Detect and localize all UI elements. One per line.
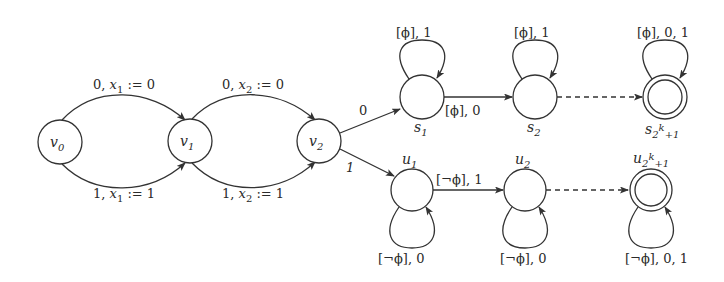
edge-label-v1-v2-bottom: 1, x2 := 1: [222, 186, 284, 204]
label-s1: s1: [414, 119, 428, 138]
label-u2k1: u2k+1: [633, 150, 669, 169]
edge-v1-v2-top: [192, 95, 315, 120]
loop-u2k1: [629, 207, 674, 248]
loop-s2k1: [643, 40, 688, 79]
edge-label-v0-v1-bottom: 1, x1 := 1: [93, 186, 155, 204]
loop-u2: [503, 207, 548, 248]
loop-label-u1: [¬ϕ], 0: [378, 251, 424, 266]
label-s2: s2: [527, 119, 541, 138]
edge-label-s1-s2: [ϕ], 0: [445, 103, 481, 118]
node-u2k1-inner: [635, 174, 667, 206]
node-s1: [400, 75, 444, 119]
edge-label-v2-u1: 1: [346, 160, 354, 175]
loop-label-s2: [ϕ], 1: [514, 25, 550, 40]
label-s2k1: s2k+1: [645, 121, 679, 140]
automaton-diagram: v0 v1 v2 s1 s2 s2k+1 u1 u2 u2k+1 0, x1 :…: [0, 0, 724, 282]
edge-v1-v2-bottom: [192, 162, 315, 188]
edge-label-u1-u2: [¬ϕ], 1: [436, 172, 482, 187]
node-u2: [504, 169, 546, 211]
label-u2: u2: [515, 151, 530, 170]
loop-label-u2k1: [¬ϕ], 0, 1: [625, 251, 688, 266]
edge-label-v2-s1: 0: [359, 103, 367, 118]
loop-label-s1: [ϕ], 1: [396, 25, 432, 40]
label-u1: u1: [402, 151, 417, 170]
edge-label-v0-v1-top: 0, x1 := 0: [93, 77, 155, 95]
loop-s2: [513, 40, 558, 79]
node-s2: [513, 75, 557, 119]
node-s2k1-inner: [648, 80, 682, 114]
node-u1: [391, 169, 433, 211]
edge-label-v1-v2-top: 0, x2 := 0: [222, 77, 284, 95]
edge-v0-v1-bottom: [62, 163, 185, 188]
loop-s1: [400, 40, 445, 79]
loop-label-s2k1: [ϕ], 0, 1: [637, 25, 689, 40]
loop-label-u2: [¬ϕ], 0: [500, 251, 546, 266]
loop-u1: [390, 207, 435, 248]
edge-v2-s1: [340, 109, 400, 133]
edge-v0-v1-top: [62, 95, 185, 120]
